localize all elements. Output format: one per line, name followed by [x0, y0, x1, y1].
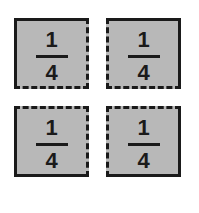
denominator: 4	[17, 150, 86, 172]
quarter-piece-top-left: 1 4	[14, 18, 89, 89]
denominator: 4	[109, 150, 178, 172]
fraction-label: 1 4	[109, 29, 178, 84]
fraction-label: 1 4	[109, 117, 178, 172]
fraction-label: 1 4	[17, 117, 86, 172]
quarter-piece-bottom-left: 1 4	[14, 106, 89, 177]
numerator: 1	[109, 29, 178, 51]
fraction-bar	[128, 55, 160, 58]
numerator: 1	[17, 29, 86, 51]
fraction-bar	[36, 143, 68, 146]
fraction-label: 1 4	[17, 29, 86, 84]
denominator: 4	[17, 62, 86, 84]
denominator: 4	[109, 62, 178, 84]
numerator: 1	[17, 117, 86, 139]
numerator: 1	[109, 117, 178, 139]
fraction-bar	[36, 55, 68, 58]
quarter-piece-bottom-right: 1 4	[106, 106, 181, 177]
quarter-piece-top-right: 1 4	[106, 18, 181, 89]
fraction-bar	[128, 143, 160, 146]
